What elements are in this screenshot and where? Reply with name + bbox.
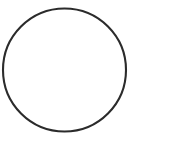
circle-outline-svg (0, 0, 176, 141)
drawing-canvas (0, 0, 176, 141)
